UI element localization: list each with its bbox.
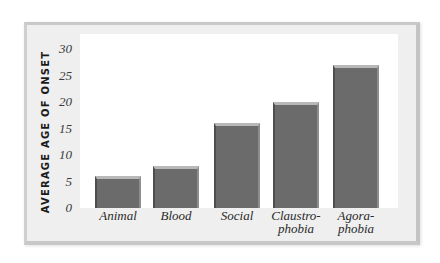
- bar-claustrophobia: [273, 102, 319, 208]
- y-tick-label: 0: [42, 201, 72, 214]
- bar-blood: [153, 166, 199, 208]
- y-tick-label: 15: [42, 122, 72, 135]
- y-tick-label: 30: [42, 42, 72, 55]
- x-tick-label: Blood: [141, 209, 211, 222]
- x-tick-label-line: Blood: [141, 209, 211, 222]
- y-tick-label: 25: [42, 69, 72, 82]
- bar-animal: [95, 176, 141, 208]
- y-tick-label: 5: [42, 175, 72, 188]
- y-tick-label: 20: [42, 95, 72, 108]
- bar-social: [214, 123, 260, 208]
- x-tick-label: Agora-phobia: [321, 209, 391, 235]
- y-tick-label: 10: [42, 148, 72, 161]
- bar-agoraphobia: [333, 65, 379, 208]
- x-tick-label-line: phobia: [321, 222, 391, 235]
